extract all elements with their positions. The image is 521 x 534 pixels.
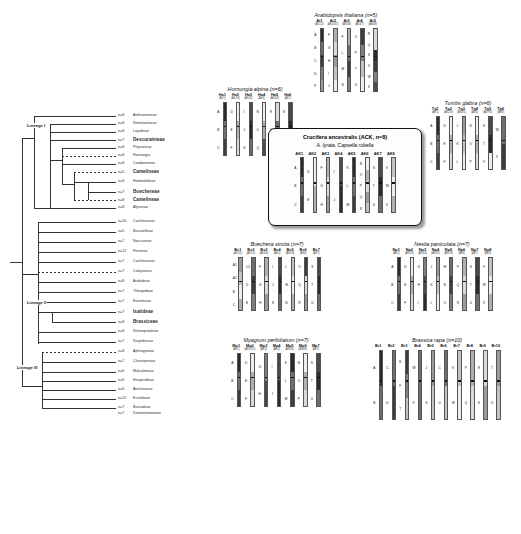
- genomic-block: [411, 258, 413, 276]
- tip-chromosome-count: n=8: [118, 113, 133, 118]
- chromosome-sublabel: (AK6): [300, 252, 307, 255]
- centromere-marker: [249, 126, 253, 128]
- genomic-block: [374, 40, 376, 51]
- block-label: R: [457, 302, 459, 305]
- genomic-block: [305, 276, 307, 294]
- genomic-block: [374, 82, 376, 92]
- ack-title: Crucifera ancestralis (ACK, n=8): [269, 134, 421, 140]
- chromosome-sublabel: (AK7): [313, 252, 320, 255]
- genomic-block: [374, 72, 376, 83]
- chromosome: At2(AK3/4/5)FGHIJ: [327, 19, 338, 94]
- chromosome-bar: [291, 257, 295, 311]
- chromosome-bar-wrap: STU: [311, 353, 321, 409]
- chromosome: Tg4(AK6)NOP: [470, 107, 480, 172]
- chromosome-bar-wrap: PQ: [465, 350, 475, 422]
- genomic-block: [393, 386, 395, 420]
- block-label: E: [307, 199, 309, 202]
- chromosome-bar: [397, 257, 401, 311]
- block-label: W: [386, 185, 389, 188]
- centromere-marker: [502, 140, 506, 142]
- block-label: T: [399, 408, 401, 411]
- chromosome-set: Bs1(AK1/5)A1A2BCBs2(AK1/2)C2DEBs3(AK3/6)…: [216, 248, 338, 313]
- genomic-block: [432, 386, 434, 420]
- block-label: M: [285, 398, 288, 401]
- chromosome-bar: [223, 102, 227, 156]
- chromosome-bar-wrap: OPTU: [355, 28, 365, 94]
- chromosome-bar-wrap: ABC: [217, 102, 227, 158]
- genomic-block: [292, 294, 294, 311]
- tip-chromosome-count: n=8: [118, 153, 133, 158]
- centromere-marker: [317, 281, 321, 283]
- tree-tip: n=8Smelowskieae: [118, 121, 157, 126]
- block-label: F: [320, 167, 322, 170]
- chromosome-bar-wrap: STU: [373, 157, 383, 215]
- tip-taxon-name: Sisymbrieae: [133, 339, 153, 343]
- chromosome-bar: [249, 102, 253, 156]
- panel-boechera: Boechera stricta (n=7) Bs1(AK1/5)A1A2BCB…: [216, 241, 338, 313]
- block-label: U: [311, 302, 313, 305]
- block-label: P: [470, 161, 472, 164]
- chromosome-bar-wrap: GHI: [417, 257, 427, 313]
- chromosome: Ha1(AK1)ABC: [217, 93, 227, 158]
- genomic-block: [361, 61, 363, 77]
- chromosome-bar: [488, 257, 492, 311]
- chromosome-bar: [365, 157, 369, 213]
- genomic-block: [353, 177, 355, 196]
- block-label: O: [257, 129, 259, 132]
- genomic-block: [224, 121, 226, 139]
- genomic-block: [463, 294, 465, 311]
- genomic-block: [380, 386, 382, 420]
- genomic-block: [463, 153, 465, 170]
- block-label: J: [244, 129, 246, 132]
- chromosome-sublabel: (AK6): [471, 111, 478, 114]
- chromosome-bar-wrap: JK: [426, 350, 436, 422]
- centromere-marker: [436, 140, 440, 142]
- chromosome-label: Br4: [414, 344, 421, 348]
- chromosome-bar-wrap: DEF: [245, 353, 255, 409]
- genomic-block: [437, 258, 439, 276]
- tip-taxon-name: Hesperideae: [133, 378, 154, 382]
- chromosome-label: AK1: [295, 152, 303, 156]
- centromere-marker: [431, 380, 435, 382]
- genomic-block: [353, 196, 355, 214]
- tree-tip: n=7Sisymbrieae: [118, 339, 153, 344]
- ancestral-karyotype-box: Crucifera ancestralis (ACK, n=8) A. lyra…: [268, 128, 422, 226]
- chromosome: At5(AK6/8)RQSVWX: [368, 19, 378, 94]
- block-label: I: [334, 171, 335, 174]
- block-label: C2: [246, 266, 250, 269]
- tree-tip: n=7Dontostemoneae: [118, 411, 161, 416]
- genomic-block: [463, 276, 465, 294]
- chromosome: Ha2(AK2/3)DEF: [230, 93, 240, 158]
- genomic-block: [366, 170, 368, 181]
- chromosome-sublabel: (AK5/6): [286, 252, 295, 255]
- genomic-block: [250, 139, 252, 156]
- block-label: I: [244, 111, 245, 114]
- centromere-marker: [264, 377, 268, 379]
- chromosome: Tg2(AK2/3)DEF: [443, 107, 453, 172]
- chromosome-label: Br8: [466, 344, 473, 348]
- centromere-marker: [252, 281, 256, 283]
- genomic-block: [392, 196, 394, 214]
- chromosome-bar: [304, 257, 308, 311]
- chromosome-sublabel: (AK3/6): [342, 23, 351, 26]
- tip-taxon-name: Noccaeeae: [133, 239, 152, 243]
- chromosome: Br4WV: [412, 344, 422, 421]
- block-label: W: [368, 76, 371, 79]
- chromosome-bar: [462, 116, 466, 170]
- genomic-block: [252, 276, 254, 294]
- block-label: F: [230, 147, 232, 150]
- genomic-block: [411, 294, 413, 311]
- chromosome: Bs4(AK4)IJK: [272, 248, 282, 313]
- tree-tip: n=7Cochlearieae: [118, 259, 155, 264]
- genomic-block: [411, 276, 413, 294]
- genomic-block: [476, 117, 478, 135]
- chromosome-sublabel: (AK2/3/5): [244, 348, 255, 351]
- tip-chromosome-count: n=6: [118, 387, 133, 392]
- block-label: A: [373, 367, 375, 370]
- chromosome-sublabel: (AK1): [393, 252, 400, 255]
- genomic-block: [292, 276, 294, 294]
- tip-taxon-name: Arabideae: [133, 279, 150, 283]
- genomic-block: [252, 294, 254, 311]
- tip-chromosome-count: n=7: [118, 310, 133, 315]
- genomic-block: [304, 354, 306, 372]
